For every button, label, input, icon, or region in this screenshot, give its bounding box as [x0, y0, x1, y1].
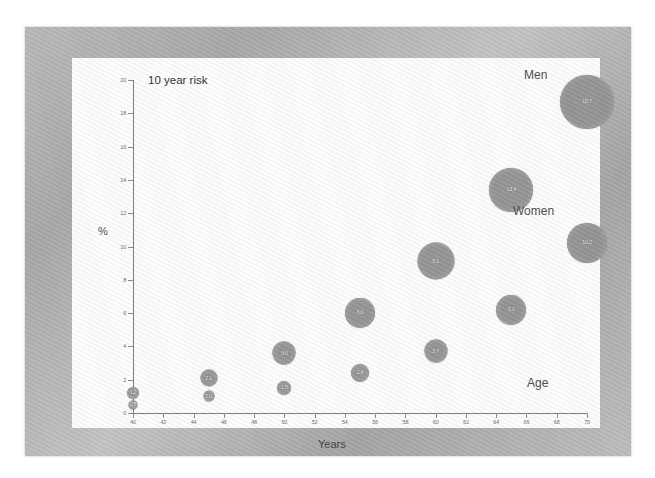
y-tick-label: 6	[123, 310, 126, 316]
x-tick-label: 56	[372, 419, 378, 425]
figure-border: 02468101214161820 4042444648505254565860…	[25, 27, 631, 456]
x-tick-label: 66	[524, 419, 530, 425]
bubble-value-label: 18.7	[582, 99, 592, 105]
y-tick-label: 4	[123, 343, 126, 349]
x-tick	[194, 413, 195, 418]
y-tick	[128, 147, 133, 148]
x-tick-label: 48	[251, 419, 257, 425]
series-label-women: Women	[513, 204, 554, 218]
plot-area: 02468101214161820 4042444648505254565860…	[72, 58, 600, 428]
bubble-value-label: 3.7	[432, 349, 439, 355]
x-tick	[526, 413, 527, 418]
x-tick	[557, 413, 558, 418]
x-tick-label: 58	[403, 419, 409, 425]
bubble-datapoint: 3.6	[273, 342, 296, 365]
x-tick-label: 46	[221, 419, 227, 425]
bubble-value-label: 10.2	[582, 240, 592, 246]
y-tick	[128, 113, 133, 114]
bubble-datapoint: 6.0	[345, 298, 375, 328]
bubble-value-label: 1.0	[205, 394, 212, 400]
y-tick-label: 0	[123, 410, 126, 416]
y-tick-label: 20	[120, 77, 126, 83]
bubble-value-label: 2.1	[205, 375, 212, 381]
bubble-datapoint: 3.7	[424, 340, 447, 363]
x-tick	[436, 413, 437, 418]
bubble-datapoint: 1.5	[277, 381, 291, 395]
y-tick	[128, 213, 133, 214]
bubble-value-label: 2.4	[357, 370, 364, 376]
x-axis-line	[133, 413, 587, 414]
x-tick-label: 60	[433, 419, 439, 425]
bubble-value-label: 6.0	[357, 310, 364, 316]
x-tick	[133, 413, 134, 418]
series-label-men: Men	[524, 68, 547, 82]
bubble-datapoint: 10.2	[567, 223, 607, 263]
y-tick	[128, 280, 133, 281]
x-tick-label: 42	[160, 419, 166, 425]
figure-paper: 02468101214161820 4042444648505254565860…	[72, 58, 600, 428]
age-axis-annotation: Age	[527, 376, 548, 390]
x-tick-label: 50	[281, 419, 287, 425]
bubble-value-label: 1.5	[281, 385, 288, 391]
x-tick-label: 44	[191, 419, 197, 425]
y-tick	[128, 180, 133, 181]
x-tick	[405, 413, 406, 418]
y-tick	[128, 313, 133, 314]
y-tick	[128, 346, 133, 347]
x-tick-label: 54	[342, 419, 348, 425]
y-tick-label: 18	[120, 110, 126, 116]
x-axis-title: Years	[318, 438, 346, 450]
x-tick	[315, 413, 316, 418]
x-tick	[284, 413, 285, 418]
y-axis-title: %	[98, 225, 108, 237]
bubble-value-label: 0.5	[130, 402, 137, 408]
x-tick	[466, 413, 467, 418]
x-tick	[375, 413, 376, 418]
x-tick	[163, 413, 164, 418]
y-tick	[128, 380, 133, 381]
x-tick-label: 64	[493, 419, 499, 425]
bubble-datapoint: 9.1	[417, 243, 454, 280]
bubble-datapoint: 6.2	[496, 295, 526, 325]
x-tick	[224, 413, 225, 418]
x-tick	[587, 413, 588, 418]
y-tick-label: 14	[120, 177, 126, 183]
x-tick-label: 52	[312, 419, 318, 425]
y-tick-label: 2	[123, 377, 126, 383]
y-tick-label: 16	[120, 144, 126, 150]
x-tick	[345, 413, 346, 418]
bubble-datapoint: 1.2	[127, 387, 139, 399]
x-tick-label: 68	[554, 419, 560, 425]
y-tick	[128, 247, 133, 248]
bubble-datapoint: 0.5	[129, 400, 138, 409]
bubble-value-label: 1.2	[130, 390, 137, 396]
chart-title: 10 year risk	[148, 74, 207, 86]
y-tick-label: 8	[123, 277, 126, 283]
y-tick-label: 12	[120, 210, 126, 216]
y-tick-label: 10	[120, 244, 126, 250]
scanned-figure: 02468101214161820 4042444648505254565860…	[0, 0, 655, 478]
x-tick	[254, 413, 255, 418]
bubble-datapoint: 2.4	[351, 364, 369, 382]
y-axis-line	[133, 80, 134, 414]
bubble-value-label: 6.2	[508, 307, 515, 313]
bubble-datapoint: 1.0	[203, 391, 214, 402]
bubble-value-label: 3.6	[281, 350, 288, 356]
x-tick-label: 40	[130, 419, 136, 425]
bubble-value-label: 9.1	[432, 259, 439, 265]
bubble-value-label: 13.4	[507, 187, 517, 193]
x-tick-label: 62	[463, 419, 469, 425]
x-tick	[496, 413, 497, 418]
y-tick	[128, 80, 133, 81]
bubble-datapoint: 18.7	[560, 75, 614, 129]
bubble-datapoint: 2.1	[200, 370, 217, 387]
x-tick-label: 70	[584, 419, 590, 425]
